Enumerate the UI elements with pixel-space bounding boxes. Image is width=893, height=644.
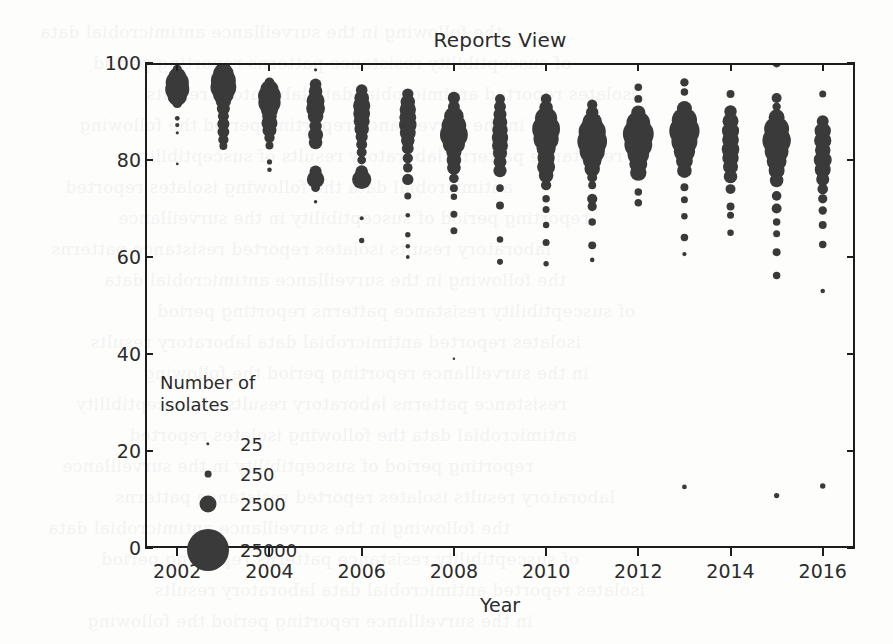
x-tick-label: 2004 (245, 560, 293, 582)
x-tick-label: 2008 (430, 560, 478, 582)
size-legend: Number of isolates 25250250025000 (160, 372, 370, 422)
legend-entry-label: 25 (240, 434, 263, 455)
x-axis-tick (637, 548, 639, 556)
x-axis-tick-top (730, 63, 732, 71)
legend-marker-icon (205, 471, 212, 478)
y-tick-label: 0 (129, 537, 141, 559)
x-axis-tick-top (268, 63, 270, 71)
legend-entry-label: 250 (240, 464, 274, 485)
y-tick-label: 100 (105, 52, 141, 74)
y-axis-tick (145, 547, 153, 549)
y-tick-label: 60 (117, 246, 141, 268)
y-tick-label: 40 (117, 343, 141, 365)
x-tick-label: 2014 (706, 560, 754, 582)
y-axis-tick-right (847, 62, 855, 64)
x-axis-tick (361, 548, 363, 556)
legend-entry-label: 2500 (240, 494, 286, 515)
y-axis-tick (145, 450, 153, 452)
legend-title: Number of isolates (160, 372, 370, 416)
x-tick-label: 2006 (338, 560, 386, 582)
legend-entry-label: 25000 (240, 539, 297, 560)
x-axis-tick (545, 548, 547, 556)
x-tick-label: 2016 (799, 560, 847, 582)
y-axis-tick-right (847, 159, 855, 161)
y-axis-tick (145, 353, 153, 355)
x-axis-tick (176, 548, 178, 556)
x-axis-label: Year (145, 594, 855, 616)
chart-figure: the following in the surveillance antimi… (0, 0, 893, 644)
x-axis-tick (730, 548, 732, 556)
x-tick-label: 2012 (614, 560, 662, 582)
y-tick-label: 80 (117, 149, 141, 171)
x-axis-tick (822, 548, 824, 556)
y-axis-tick-right (847, 450, 855, 452)
x-axis-tick-top (453, 63, 455, 71)
x-axis-tick-top (176, 63, 178, 71)
x-axis-tick (453, 548, 455, 556)
legend-marker-icon (187, 529, 229, 571)
y-axis-tick (145, 256, 153, 258)
x-axis-tick-top (361, 63, 363, 71)
chart-title: Reports View (145, 28, 855, 52)
y-axis-tick-right (847, 353, 855, 355)
x-axis-tick-top (545, 63, 547, 71)
y-axis-tick-right (847, 547, 855, 549)
x-axis-tick-top (822, 63, 824, 71)
x-tick-label: 2010 (522, 560, 570, 582)
legend-marker-icon (200, 496, 217, 513)
y-tick-label: 20 (117, 440, 141, 462)
y-axis-tick (145, 159, 153, 161)
y-axis-tick-right (847, 256, 855, 258)
x-axis-tick-top (637, 63, 639, 71)
y-axis-tick (145, 62, 153, 64)
